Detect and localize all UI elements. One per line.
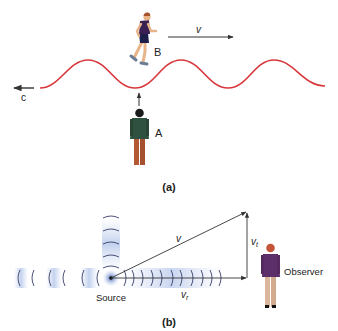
runner-b-label: B	[154, 46, 161, 58]
wavefront-halos	[14, 218, 222, 288]
source-label: Source	[96, 292, 126, 303]
sound-wave	[40, 60, 325, 88]
observer-figure	[261, 244, 280, 308]
observer-label: Observer	[284, 266, 323, 277]
velocity-label: v	[176, 233, 182, 244]
caption-a: (a)	[162, 181, 176, 193]
person-a-figure	[130, 109, 149, 165]
radial-label: vr	[181, 289, 189, 301]
person-a-label: A	[155, 127, 163, 139]
part-b: v vt vr Source Observer (b)	[14, 212, 323, 328]
wave-speed-label: c	[21, 92, 26, 103]
caption-b: (b)	[162, 316, 176, 328]
tangential-label: vt	[251, 236, 259, 248]
runner-velocity-label: v	[196, 24, 202, 35]
part-a: B v c A (a)	[14, 12, 325, 193]
doppler-diagram: B v c A (a)	[0, 0, 338, 331]
runner-b-figure	[131, 12, 156, 64]
